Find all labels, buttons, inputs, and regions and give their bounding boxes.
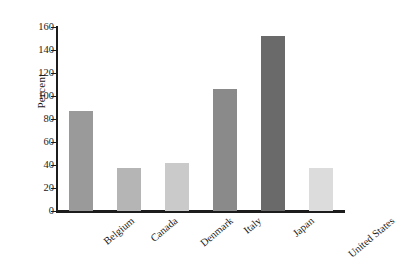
bar <box>261 36 285 211</box>
y-axis-tick-label: 20 <box>44 181 55 194</box>
bar <box>309 168 333 211</box>
y-axis-tick-label: 0 <box>49 204 54 217</box>
x-axis-tick-label: Denmark <box>198 215 236 249</box>
y-axis-tick-label: 40 <box>44 158 55 171</box>
y-axis-tick-label: 80 <box>44 112 55 125</box>
y-axis-tick-label: 160 <box>38 20 54 33</box>
y-axis-tick-label: 100 <box>38 89 54 102</box>
x-axis-tick-label: United States <box>346 215 397 260</box>
plot-area: 020406080100120140160 <box>57 27 345 211</box>
bar <box>117 168 141 211</box>
y-axis-tick-label: 140 <box>38 43 54 56</box>
x-axis-tick-label: Italy <box>242 215 264 237</box>
x-axis-tick-label: Japan <box>291 215 317 240</box>
bar <box>213 89 237 211</box>
y-axis-tick-label: 120 <box>38 66 54 79</box>
x-axis-tick-label: Belgium <box>101 215 136 247</box>
bar <box>165 163 189 211</box>
bar <box>69 111 93 211</box>
y-axis-tick-label: 60 <box>44 135 55 148</box>
x-axis-tick-label: Canada <box>148 215 180 244</box>
